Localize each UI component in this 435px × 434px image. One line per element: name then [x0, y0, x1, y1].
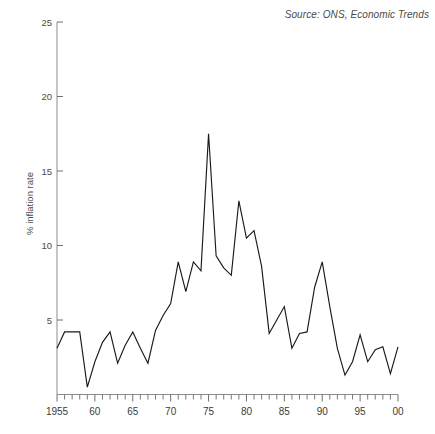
y-tick-label: 15 — [41, 166, 52, 177]
x-tick-label: 80 — [241, 406, 253, 417]
y-axis: 510152025 — [41, 17, 63, 395]
x-tick-label: 95 — [355, 406, 367, 417]
x-tick-label: 60 — [89, 406, 101, 417]
inflation-line-series — [57, 134, 398, 387]
x-tick-label: 65 — [127, 406, 139, 417]
y-tick-label: 5 — [47, 315, 52, 326]
x-tick-label: 90 — [317, 406, 329, 417]
inflation-rate-chart: Source: ONS, Economic Trends % inflation… — [0, 0, 435, 434]
x-tick-label: 70 — [165, 406, 177, 417]
y-tick-label: 20 — [41, 91, 52, 102]
plot-area: 510152025 1955606570758085909500 — [0, 0, 435, 434]
x-tick-label: 1955 — [46, 406, 69, 417]
x-tick-label: 00 — [392, 406, 404, 417]
x-tick-label: 75 — [203, 406, 215, 417]
y-tick-label: 25 — [41, 17, 52, 28]
y-tick-label: 10 — [41, 240, 52, 251]
x-tick-label: 85 — [279, 406, 291, 417]
x-axis: 1955606570758085909500 — [46, 395, 404, 417]
